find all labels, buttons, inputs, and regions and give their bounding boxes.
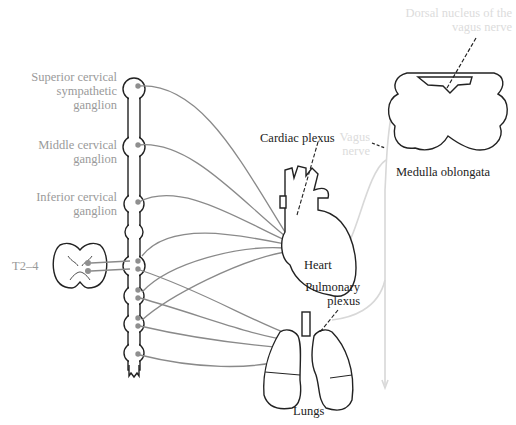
- label-line: Pulmonary: [290, 280, 360, 294]
- label-line: sympathetic: [10, 84, 117, 98]
- vagus-nerve-label: Vagus nerve: [330, 130, 370, 158]
- label-line: nerve: [330, 144, 370, 158]
- lungs-label: Lungs: [293, 404, 324, 418]
- label-line: Middle cervical: [10, 138, 117, 152]
- label-line: ganglion: [10, 98, 117, 112]
- spinal-cord-section: [53, 243, 107, 288]
- middle-cervical-ganglion-label: Middle cervical ganglion: [10, 138, 117, 166]
- label-line: Superior cervical: [10, 70, 117, 84]
- superior-cervical-ganglion-label: Superior cervical sympathetic ganglion: [10, 70, 117, 112]
- label-line: ganglion: [10, 152, 117, 166]
- label-line: Inferior cervical: [10, 190, 117, 204]
- heart-label: Heart: [304, 258, 332, 272]
- cardiac-plexus-label: Cardiac plexus: [260, 131, 335, 145]
- heart: [280, 166, 356, 296]
- sympathetic-fibers: [91, 86, 288, 367]
- label-line: vagus nerve: [380, 20, 512, 34]
- label-line: plexus: [290, 294, 360, 308]
- pulmonary-plexus-pointer: [320, 310, 338, 332]
- inferior-cervical-ganglion-label: Inferior cervical ganglion: [10, 190, 117, 218]
- medulla-oblongata-label: Medulla oblongata: [396, 165, 490, 179]
- label-line: Vagus: [330, 130, 370, 144]
- sympathetic-trunk: [123, 78, 145, 377]
- dorsal-nucleus-label: Dorsal nucleus of the vagus nerve: [380, 6, 512, 34]
- label-line: ganglion: [10, 204, 117, 218]
- pulmonary-plexus-label: Pulmonary plexus: [290, 280, 360, 308]
- spinal-level-label: T2–4: [12, 259, 38, 273]
- lungs: [264, 312, 353, 410]
- label-line: Dorsal nucleus of the: [380, 6, 512, 20]
- medulla-oblongata: [389, 73, 508, 150]
- vagus-nerve-pointer: [372, 143, 385, 148]
